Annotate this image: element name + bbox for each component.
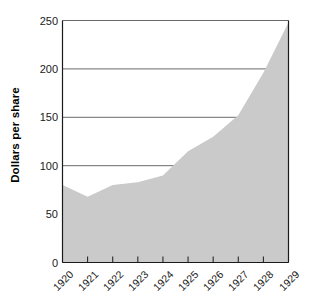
area-series-dollars-per-share <box>63 22 289 262</box>
y-tick-label-100: 100 <box>24 160 58 172</box>
chart-figure: Dollars per share 050100150200250 192019… <box>0 0 310 303</box>
y-tick-label-150: 150 <box>24 111 58 123</box>
y-axis-tick-labels: 050100150200250 <box>22 0 58 303</box>
y-tick-label-0: 0 <box>24 257 58 269</box>
y-tick-label-200: 200 <box>24 63 58 75</box>
y-tick-label-250: 250 <box>24 15 58 27</box>
y-tick-label-50: 50 <box>24 208 58 220</box>
